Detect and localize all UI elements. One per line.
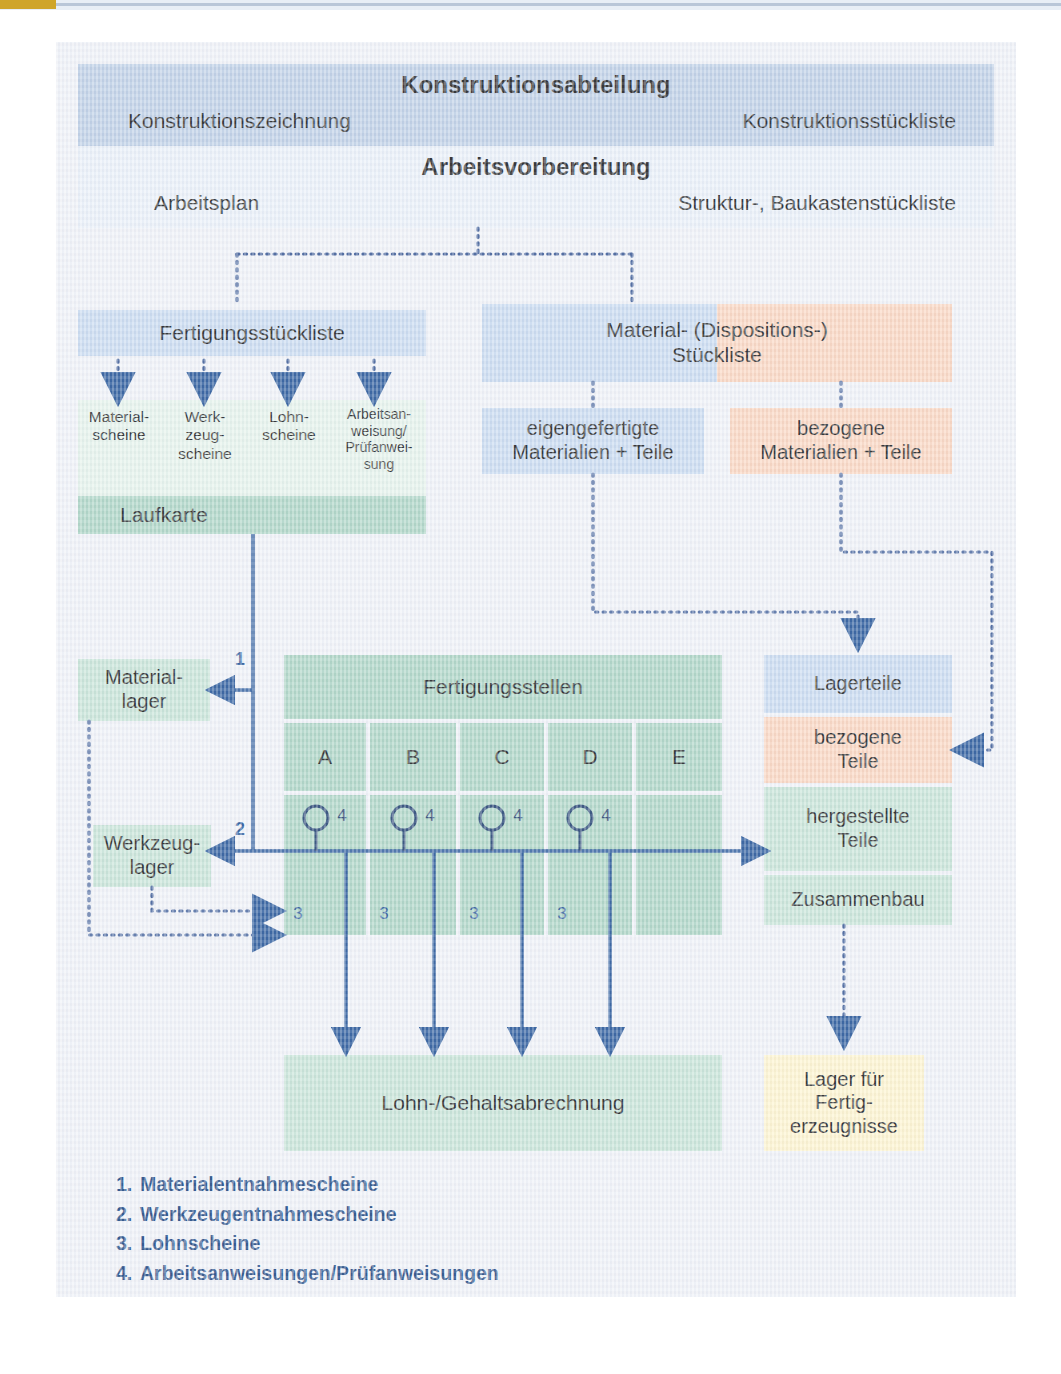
top-strip-gold-marker <box>0 0 56 9</box>
operation-node-b <box>392 806 416 851</box>
legend-number: 4. <box>116 1259 140 1289</box>
dotted-arrows-to-scheine <box>118 360 374 388</box>
top-strip-rule <box>56 3 1061 6</box>
legend-label: Arbeitsanweisungen/Prüfanweisungen <box>140 1259 499 1289</box>
dotted-distribution-bus <box>237 228 632 304</box>
operation-node-a <box>304 806 328 851</box>
legend-number: 2. <box>116 1200 140 1230</box>
legend-item: 2. Werkzeugentnahmescheine <box>116 1200 736 1230</box>
dotted-dispo-to-materials <box>593 382 841 408</box>
legend-label: Materialentnahmescheine <box>140 1170 378 1200</box>
legend-item: 1. Materialentnahmescheine <box>116 1170 736 1200</box>
operation-node-c <box>480 806 504 851</box>
legend-number: 3. <box>116 1229 140 1259</box>
connector-layer <box>56 42 1016 1297</box>
operation-node-d <box>568 806 592 851</box>
legend-number: 1. <box>116 1170 140 1200</box>
legend-item: 4. Arbeitsanweisungen/Prüfanweisungen <box>116 1259 736 1289</box>
dotted-eigengefertigte-to-lagerteile <box>593 474 858 634</box>
legend-item: 3. Lohnscheine <box>116 1229 736 1259</box>
dotted-werkzeuglager-outputs <box>152 887 268 911</box>
dotted-bezogene-to-bezogene-teile <box>841 474 992 750</box>
dotted-materiallager-outputs <box>89 721 268 935</box>
top-strip <box>0 0 1061 10</box>
diagram-page: Konstruktionsabteilung Konstruktionszeic… <box>56 42 1016 1297</box>
solid-drops-to-lohnabrechnung <box>346 851 610 1042</box>
legend: 1. Materialentnahmescheine 2. Werkzeugen… <box>116 1170 736 1289</box>
diagram-root: Konstruktionsabteilung Konstruktionszeic… <box>0 0 1061 1374</box>
diagram-canvas: Konstruktionsabteilung Konstruktionszeic… <box>56 42 1016 1297</box>
legend-label: Werkzeugentnahmescheine <box>140 1200 396 1230</box>
legend-label: Lohnscheine <box>140 1229 260 1259</box>
